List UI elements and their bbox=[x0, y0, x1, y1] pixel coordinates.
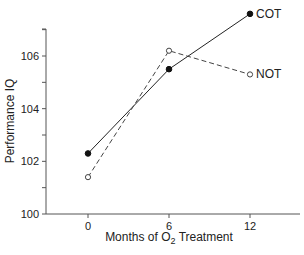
y-tick-label: 104 bbox=[21, 103, 39, 115]
axes: 1001021041060612 bbox=[21, 29, 300, 232]
x-tick-label: 0 bbox=[85, 220, 91, 232]
line-chart: 1001021041060612 COTNOT Performance IQ M… bbox=[0, 0, 304, 255]
data-point-marker bbox=[247, 72, 252, 77]
y-axis-label: Performance IQ bbox=[3, 79, 17, 164]
series-line bbox=[88, 14, 250, 154]
series-label: COT bbox=[256, 7, 282, 21]
y-tick-label: 100 bbox=[21, 208, 39, 220]
data-point-marker bbox=[166, 48, 171, 53]
y-tick-label: 106 bbox=[21, 50, 39, 62]
y-tick-label: 102 bbox=[21, 155, 39, 167]
x-tick-label: 12 bbox=[244, 220, 256, 232]
data-point-marker bbox=[85, 151, 91, 157]
data-point-marker bbox=[247, 11, 253, 17]
series-group: COTNOT bbox=[85, 7, 282, 180]
x-axis-label: Months of O2 Treatment bbox=[105, 230, 233, 246]
series-not: NOT bbox=[85, 48, 282, 180]
data-point-marker bbox=[85, 175, 90, 180]
data-point-marker bbox=[166, 66, 172, 72]
series-label: NOT bbox=[256, 67, 282, 81]
series-cot: COT bbox=[85, 7, 282, 156]
